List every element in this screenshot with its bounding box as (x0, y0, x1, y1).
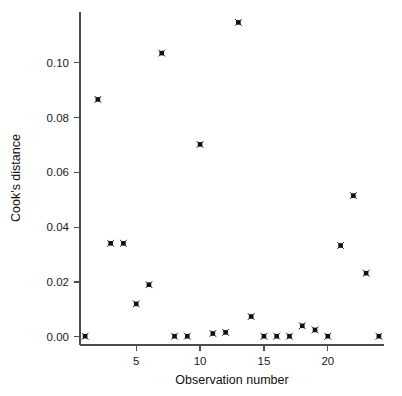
data-point (197, 141, 204, 148)
data-point (363, 270, 370, 277)
data-point (235, 19, 242, 26)
data-point (324, 333, 331, 340)
x-tick-label: 5 (133, 355, 139, 367)
y-tick-label: 0.00 (47, 331, 69, 343)
y-tick-group: 0.000.020.040.060.080.10 (47, 57, 80, 343)
plot-canvas: 0.000.020.040.060.080.10 5101520 Observa… (0, 0, 402, 396)
data-point (82, 333, 89, 340)
y-tick-label: 0.02 (47, 276, 69, 288)
y-axis-title: Cook's distance (9, 134, 23, 222)
data-point (222, 329, 229, 336)
y-tick-label: 0.10 (47, 57, 69, 69)
x-tick-group: 5101520 (133, 345, 334, 367)
x-tick-label: 10 (194, 355, 207, 367)
data-point (350, 192, 357, 199)
data-point (171, 333, 178, 340)
y-tick-label: 0.08 (47, 112, 69, 124)
x-tick-label: 15 (258, 355, 271, 367)
data-point (107, 240, 114, 247)
data-point (375, 333, 382, 340)
data-point (261, 333, 268, 340)
data-point (120, 240, 127, 247)
cooks-distance-chart: 0.000.020.040.060.080.10 5101520 Observa… (0, 0, 402, 396)
data-point (299, 322, 306, 329)
data-point-group (82, 19, 383, 340)
data-point (312, 327, 319, 334)
data-point (94, 96, 101, 103)
data-point (209, 330, 216, 337)
x-tick-label: 20 (321, 355, 334, 367)
data-point (273, 333, 280, 340)
data-point (337, 242, 344, 249)
data-point (286, 333, 293, 340)
data-point (158, 50, 165, 57)
data-point (133, 300, 140, 307)
data-point (184, 333, 191, 340)
data-point (248, 313, 255, 320)
y-tick-label: 0.04 (47, 221, 70, 233)
x-axis-title: Observation number (175, 373, 288, 387)
data-point (146, 281, 153, 288)
y-tick-label: 0.06 (47, 166, 69, 178)
